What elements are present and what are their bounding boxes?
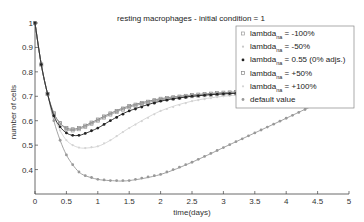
chart-title: resting macrophages - initial condition … (117, 14, 265, 23)
line-chart: resting macrophages - initial condition … (0, 0, 364, 222)
x-axis-label: time(days) (173, 208, 211, 217)
y-tick-label: 0.8 (22, 68, 34, 77)
x-tick-label: 3.5 (249, 197, 261, 206)
y-tick-label: 0.6 (22, 117, 34, 126)
y-tick-label: 1 (29, 19, 34, 28)
x-tick-label: 2 (158, 197, 163, 206)
x-tick-label: 4.5 (312, 197, 324, 206)
svg-text:default value: default value (250, 95, 296, 104)
y-tick-label: 0.9 (22, 43, 34, 52)
x-ticks: 00.511.522.533.544.55 (33, 191, 352, 206)
x-tick-label: 2.5 (186, 197, 198, 206)
x-tick-label: 5 (347, 197, 352, 206)
y-tick-label: 0.4 (22, 166, 34, 175)
x-tick-label: 0.5 (61, 197, 73, 206)
y-tick-label: 0.5 (22, 141, 34, 150)
y-tick-label: 0.7 (22, 92, 34, 101)
x-tick-label: 1 (96, 197, 101, 206)
y-ticks: 0.40.50.60.70.80.91 (22, 19, 38, 175)
x-tick-label: 4 (284, 197, 289, 206)
y-axis-label: number of cells (9, 85, 18, 139)
x-tick-label: 3 (221, 197, 226, 206)
legend-item: default value (242, 95, 296, 104)
x-tick-label: 1.5 (124, 197, 136, 206)
legend: lambdana = -100%lambdana = -50%lambdana … (236, 26, 354, 108)
x-tick-label: 0 (33, 197, 38, 206)
